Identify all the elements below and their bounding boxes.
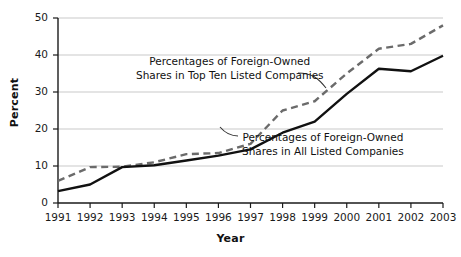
x-axis-title: Year xyxy=(0,232,461,245)
x-axis-tick-label: 2003 xyxy=(423,211,461,223)
x-axis-ticks xyxy=(58,203,443,208)
y-axis-tick-label: 40 xyxy=(22,48,48,60)
y-axis-title: Percent xyxy=(8,73,21,133)
annotation-all-listed: Percentages of Foreign-Owned Shares in A… xyxy=(242,131,404,158)
y-axis-ticks xyxy=(53,18,58,203)
annotation-top-ten: Percentages of Foreign-Owned Shares in T… xyxy=(136,55,324,82)
annotation-all-listed-line2: Shares in All Listed Companies xyxy=(242,145,404,159)
y-axis-tick-label: 50 xyxy=(22,11,48,23)
axis-lines xyxy=(58,18,443,203)
annotation-leader-all-listed xyxy=(220,127,238,136)
y-axis-tick-label: 30 xyxy=(22,85,48,97)
y-axis-tick-label: 20 xyxy=(22,122,48,134)
annotation-all-listed-line1: Percentages of Foreign-Owned xyxy=(242,131,404,145)
annotation-top-ten-line2: Shares in Top Ten Listed Companies xyxy=(136,69,324,83)
y-axis-tick-label: 0 xyxy=(22,196,48,208)
annotation-top-ten-line1: Percentages of Foreign-Owned xyxy=(136,55,324,69)
y-axis-tick-label: 10 xyxy=(22,159,48,171)
chart-container: Percent Year 01020304050 199119921993199… xyxy=(0,0,461,257)
